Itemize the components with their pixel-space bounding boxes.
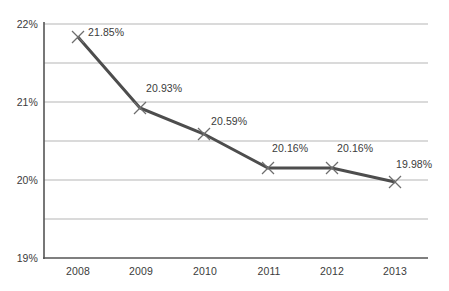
data-label-2011: 20.16%: [272, 142, 308, 154]
marker-2009: [134, 102, 146, 114]
x-tick-label-2013: 2013: [371, 265, 419, 277]
x-tick-label-2011: 2011: [245, 265, 293, 277]
data-label-2008: 21.85%: [88, 26, 124, 38]
marker-2008: [72, 31, 84, 43]
x-tick-label-2009: 2009: [117, 265, 165, 277]
x-tick-label-2008: 2008: [54, 265, 102, 277]
chart-plot-area: [0, 0, 449, 291]
y-tick-label-21: 21%: [4, 96, 38, 108]
x-tick-label-2010: 2010: [181, 265, 229, 277]
marker-2010: [198, 128, 210, 140]
line-chart: 22% 21% 20% 19% 2008 2009 2010 2011 2012…: [0, 0, 449, 291]
y-tick-label-22: 22%: [4, 18, 38, 30]
data-line-series: [78, 37, 395, 182]
data-label-2010: 20.59%: [211, 115, 247, 127]
x-tick-label-2012: 2012: [308, 265, 356, 277]
data-label-2009: 20.93%: [146, 82, 182, 94]
data-markers: [72, 31, 401, 188]
data-label-2013: 19.98%: [396, 158, 432, 170]
data-label-2012: 20.16%: [337, 142, 373, 154]
y-tick-label-19: 19%: [4, 252, 38, 264]
y-tick-label-20: 20%: [4, 174, 38, 186]
